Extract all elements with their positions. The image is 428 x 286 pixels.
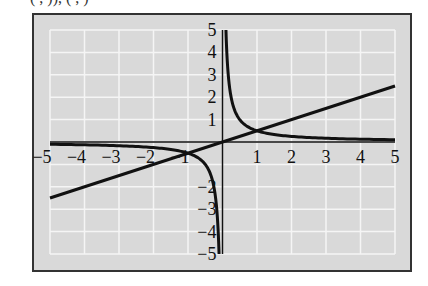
y-tick-label: 4: [208, 42, 217, 62]
x-tick-label: 1: [253, 147, 262, 167]
x-tick-label: 3: [322, 147, 331, 167]
y-tick-label: −2: [197, 177, 216, 197]
y-tick-label: 5: [208, 20, 217, 40]
y-tick-label: −3: [197, 199, 216, 219]
x-tick-label: −3: [101, 147, 120, 167]
y-tick-label: −4: [197, 222, 216, 242]
y-tick-label: 2: [208, 87, 217, 107]
x-tick-label: −5: [32, 147, 51, 167]
y-tick-label: 1: [208, 110, 217, 130]
y-tick-label: −5: [197, 244, 216, 264]
x-tick-label: −1: [170, 147, 189, 167]
graph-plot: −5−4−3−2−112345 54321−2−3−4−5: [0, 0, 428, 286]
x-tick-label: −2: [136, 147, 155, 167]
y-tick-label: 3: [208, 65, 217, 85]
x-tick-label: −4: [67, 147, 86, 167]
x-tick-label: 4: [356, 147, 365, 167]
x-tick-label: 5: [391, 147, 400, 167]
x-tick-label: 2: [287, 147, 296, 167]
